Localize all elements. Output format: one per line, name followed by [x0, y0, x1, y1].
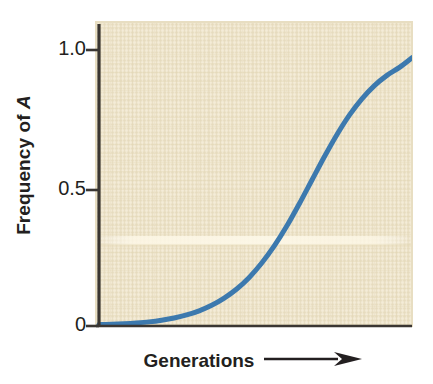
right-arrow-icon [264, 349, 364, 373]
plot-background [96, 22, 412, 326]
x-axis-label-text: Generations [144, 350, 255, 372]
figure-canvas: Frequency of A 1.0 0.5 0 [0, 0, 433, 384]
x-axis-label: Generations [96, 344, 412, 378]
plot-area-svg [0, 0, 433, 384]
